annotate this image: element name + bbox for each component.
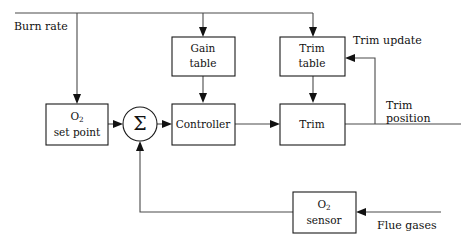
- control-system-block-diagram: O2 set point Σ Gain table Trim table Con…: [0, 0, 461, 244]
- arrow-burn-rate-to-gain-table: [199, 27, 207, 37]
- label-trim-position-line2: position: [386, 112, 430, 125]
- arrow-sensor-to-sum: [136, 141, 144, 151]
- block-trim-table-label-line1: Trim: [299, 42, 324, 54]
- arrow-burn-rate-to-setpoint: [73, 94, 81, 104]
- arrow-flue-gases-to-sensor: [356, 208, 366, 216]
- arrow-setpoint-to-sum: [113, 120, 123, 128]
- arrow-sum-to-controller: [162, 120, 172, 128]
- block-gain-table-label-line2: table: [190, 57, 217, 69]
- block-controller-label: Controller: [176, 118, 232, 130]
- arrow-trim-table-to-trim: [309, 93, 317, 103]
- block-o2-sensor-label-line2: sensor: [306, 214, 342, 226]
- block-o2-set-point-label-line2: set point: [54, 126, 101, 138]
- block-gain-table-label-line1: Gain: [191, 42, 216, 54]
- arrow-controller-to-trim: [270, 120, 280, 128]
- label-trim-position-line1: Trim: [386, 99, 413, 112]
- trim-update-feedback-line: [353, 58, 375, 124]
- arrow-trim-update-to-trim-table: [345, 54, 355, 62]
- arrow-gain-table-to-controller: [199, 93, 207, 103]
- label-burn-rate: Burn rate: [14, 20, 68, 33]
- block-trim-table-label-line2: table: [299, 57, 326, 69]
- arrow-burn-rate-to-trim-table: [309, 27, 317, 37]
- block-trim-label: Trim: [299, 118, 324, 130]
- label-trim-update: Trim update: [353, 34, 422, 47]
- summing-junction-symbol: Σ: [133, 112, 146, 134]
- block-diagram-canvas: O2 set point Σ Gain table Trim table Con…: [0, 0, 461, 244]
- label-flue-gases: Flue gases: [377, 219, 437, 232]
- sensor-feedback-line: [140, 149, 293, 212]
